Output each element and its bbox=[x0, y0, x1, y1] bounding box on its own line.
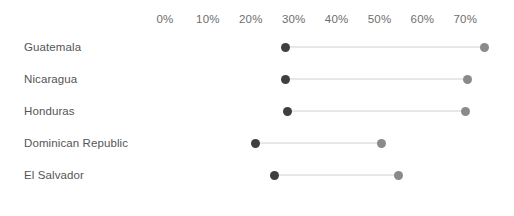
dumbbell-chart: 0% 10% 20% 30% 40% 50% 60% 70% Guatemala… bbox=[0, 0, 514, 216]
category-label: Dominican Republic bbox=[24, 137, 128, 149]
chart-rows: Guatemala Nicaragua Honduras Dominican R… bbox=[0, 0, 514, 216]
category-label: Guatemala bbox=[24, 41, 81, 53]
connector-line bbox=[285, 47, 484, 48]
category-label: Honduras bbox=[24, 105, 75, 117]
start-dot[interactable] bbox=[281, 43, 290, 52]
connector-line bbox=[274, 175, 398, 176]
start-dot[interactable] bbox=[283, 107, 292, 116]
category-label: Nicaragua bbox=[24, 73, 77, 85]
end-dot[interactable] bbox=[463, 75, 472, 84]
connector-line bbox=[255, 143, 382, 144]
chart-row: Guatemala bbox=[0, 31, 514, 63]
chart-row: El Salvador bbox=[0, 159, 514, 191]
connector-line bbox=[287, 111, 465, 112]
chart-row: Dominican Republic bbox=[0, 127, 514, 159]
chart-row: Honduras bbox=[0, 95, 514, 127]
start-dot[interactable] bbox=[281, 75, 290, 84]
end-dot[interactable] bbox=[377, 139, 386, 148]
end-dot[interactable] bbox=[461, 107, 470, 116]
connector-line bbox=[285, 79, 467, 80]
start-dot[interactable] bbox=[251, 139, 260, 148]
end-dot[interactable] bbox=[394, 171, 403, 180]
end-dot[interactable] bbox=[480, 43, 489, 52]
start-dot[interactable] bbox=[270, 171, 279, 180]
chart-row: Nicaragua bbox=[0, 63, 514, 95]
category-label: El Salvador bbox=[24, 169, 84, 181]
